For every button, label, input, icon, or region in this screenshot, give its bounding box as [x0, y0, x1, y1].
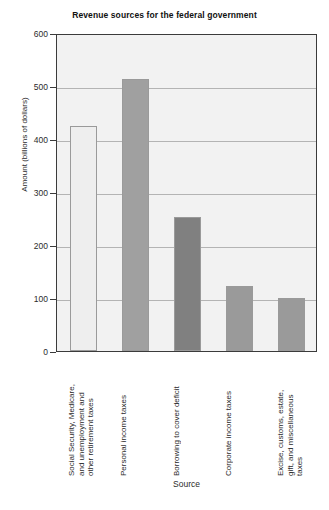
x-axis-label: Borrowing to cover deficit — [172, 358, 204, 476]
bar — [122, 79, 149, 351]
chart-title: Revenue sources for the federal governme… — [0, 10, 329, 20]
gridline — [57, 88, 316, 89]
y-axis-tick — [50, 140, 56, 141]
x-axis-label: Excise, customs, estate, gift, and misce… — [276, 358, 308, 476]
y-axis-label: 300 — [0, 189, 48, 197]
bar — [70, 126, 97, 351]
y-axis-tick — [50, 352, 56, 353]
y-axis-tick — [50, 299, 56, 300]
y-axis-label: 100 — [0, 295, 48, 303]
plot-inner — [57, 35, 316, 351]
bar — [226, 286, 253, 351]
x-axis-label: Personal income taxes — [119, 358, 151, 476]
x-axis-label: Corporate income taxes — [224, 358, 256, 476]
x-axis-label: Social Security, Medicare, and unemploym… — [67, 358, 99, 476]
y-axis-label: 500 — [0, 83, 48, 91]
y-axis-tick — [50, 193, 56, 194]
y-axis-label: 200 — [0, 242, 48, 250]
y-axis-label: 400 — [0, 136, 48, 144]
plot-area — [56, 34, 317, 352]
y-axis-tick — [50, 246, 56, 247]
bar — [278, 298, 305, 351]
y-axis-label: 0 — [0, 348, 48, 356]
bar — [174, 217, 201, 351]
x-axis-title: Source — [56, 479, 317, 489]
y-axis-tick — [50, 87, 56, 88]
y-axis-label: 600 — [0, 30, 48, 38]
y-axis-tick — [50, 34, 56, 35]
